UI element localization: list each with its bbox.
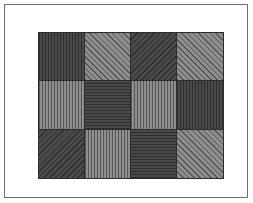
pattern-cell-r1-c0 [39, 81, 85, 129]
pattern-cell-r0-c1 [85, 33, 131, 81]
hatch-horizontal-icon [131, 130, 176, 178]
hatch-diagonal-down-icon [39, 130, 84, 178]
hatch-vertical-icon [177, 81, 223, 128]
pattern-cell-r0-c0 [39, 33, 85, 81]
pattern-cell-r2-c0 [39, 130, 85, 178]
hatch-vertical-icon [131, 81, 176, 128]
hatch-vertical-icon [39, 81, 84, 128]
pattern-cell-r1-c1 [85, 81, 131, 129]
pattern-cell-r1-c3 [177, 81, 223, 129]
pattern-cell-r2-c3 [177, 130, 223, 178]
hatch-diagonal-up-icon [177, 130, 223, 178]
hatch-diagonal-up-icon [177, 33, 223, 80]
page-frame-border [4, 4, 248, 198]
pattern-cell-r0-c2 [131, 33, 177, 81]
hatch-vertical-icon [39, 33, 84, 80]
pattern-cell-r2-c1 [85, 130, 131, 178]
pattern-cell-r0-c3 [177, 33, 223, 81]
hatch-horizontal-icon [85, 81, 130, 128]
hatch-vertical-icon [85, 130, 130, 178]
hatch-diagonal-down-icon [131, 33, 176, 80]
hatched-pattern-grid [38, 32, 224, 179]
page-canvas [0, 0, 253, 203]
pattern-cell-r1-c2 [131, 81, 177, 129]
hatch-diagonal-up-icon [85, 33, 130, 80]
pattern-cell-r2-c2 [131, 130, 177, 178]
